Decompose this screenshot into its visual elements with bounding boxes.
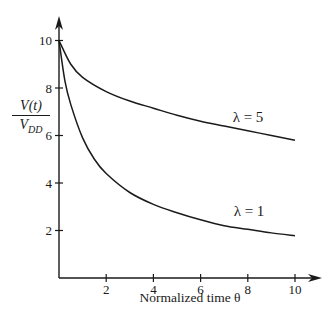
x-tick-label: 10 xyxy=(289,282,302,297)
y-axis-label: V(t) VDD xyxy=(12,98,50,138)
series-label-lambda-5: λ = 5 xyxy=(233,109,264,125)
chart-canvas: 246810 246810 λ = 5 λ = 1 Normalized tim… xyxy=(0,0,335,323)
y-tick-label: 2 xyxy=(46,223,53,238)
y-tick-label: 8 xyxy=(46,81,53,96)
series-label-lambda-1: λ = 1 xyxy=(234,203,265,219)
x-tick-label: 8 xyxy=(245,282,252,297)
y-label-den-sub: DD xyxy=(28,124,42,135)
y-tick-label: 10 xyxy=(39,33,52,48)
y-label-den-main: V xyxy=(19,117,28,132)
x-tick-label: 2 xyxy=(103,282,110,297)
y-axis-label-numerator: V(t) xyxy=(12,98,50,116)
y-axis-label-denominator: VDD xyxy=(12,116,50,138)
curve-lambda-5 xyxy=(59,41,295,141)
x-axis-label: Normalized time θ xyxy=(140,290,241,305)
axes xyxy=(59,22,316,278)
y-tick-label: 4 xyxy=(46,176,53,191)
